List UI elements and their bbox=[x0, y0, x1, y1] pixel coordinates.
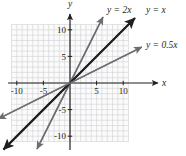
graph-canvas: -10-5510105-5-10 y = 2xy = xy = 0.5x yx bbox=[0, 0, 186, 156]
y-tick-label: 5 bbox=[62, 52, 67, 62]
x-tick-label: -5 bbox=[40, 86, 48, 96]
x-tick-label: -10 bbox=[11, 86, 23, 96]
x-tick-label: 10 bbox=[119, 86, 129, 96]
coordinate-plane-figure: -10-5510105-5-10 y = 2xy = xy = 0.5x yx bbox=[0, 0, 186, 156]
y-tick-label: -10 bbox=[54, 131, 66, 141]
y-tick-label: -5 bbox=[59, 105, 67, 115]
x-axis-name: x bbox=[161, 78, 167, 88]
x-tick-label: 5 bbox=[94, 86, 99, 96]
line-equation-label: y = x bbox=[145, 5, 166, 15]
line-equation-label: y = 2x bbox=[106, 5, 132, 15]
y-tick-label: 10 bbox=[57, 25, 67, 35]
line-equation-label: y = 0.5x bbox=[145, 40, 178, 50]
y-axis-name: y bbox=[67, 0, 73, 9]
